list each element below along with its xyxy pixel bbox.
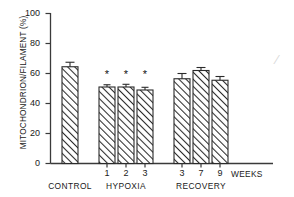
y-tick-label-20: 20: [14, 128, 40, 138]
bars-group: [62, 67, 228, 164]
x-axis-units-label: WEEKS: [231, 169, 263, 179]
bar-hypoxia-2: [118, 87, 134, 164]
axis-lines: [51, 13, 274, 164]
y-tick-label-60: 60: [14, 68, 40, 78]
error-bar-control: [66, 62, 75, 67]
group-label-recovery: RECOVERY: [170, 181, 232, 191]
y-axis-ticks: [46, 14, 51, 164]
bar-recovery-3: [174, 79, 190, 164]
significance-marker-hypoxia-2: *: [123, 72, 130, 76]
x-tick-label-recovery-9: 9: [210, 168, 230, 178]
scan-artifact: ⁄: [276, 52, 278, 67]
x-tick-label-recovery-7: 7: [191, 168, 211, 178]
group-label-control: CONTROL: [40, 181, 100, 191]
bar-control: [62, 67, 78, 164]
significance-marker-hypoxia-3: *: [142, 72, 149, 76]
y-tick-label-0: 0: [14, 158, 40, 168]
bar-recovery-9: [212, 80, 228, 163]
x-tick-label-hypoxia-2: 2: [116, 168, 136, 178]
error-bar-recovery-9: [216, 77, 225, 81]
x-tick-label-hypoxia-3: 3: [135, 168, 155, 178]
y-tick-label-80: 80: [14, 38, 40, 48]
bar-chart-figure: MITOCHONDRION/FILAMENT (%) 100 80 60 40 …: [0, 0, 294, 197]
y-tick-label-40: 40: [14, 98, 40, 108]
error-bar-recovery-3: [178, 74, 187, 79]
bar-hypoxia-1: [99, 87, 115, 164]
bar-hypoxia-3: [137, 90, 153, 164]
x-tick-label-hypoxia-1: 1: [97, 168, 117, 178]
y-axis-title: MITOCHONDRION/FILAMENT (%): [19, 3, 28, 163]
y-tick-label-100: 100: [14, 8, 40, 18]
group-label-hypoxia: HYPOXIA: [96, 181, 156, 191]
bar-recovery-7: [193, 71, 209, 164]
significance-marker-hypoxia-1: *: [104, 72, 111, 76]
x-tick-label-recovery-3: 3: [172, 168, 192, 178]
